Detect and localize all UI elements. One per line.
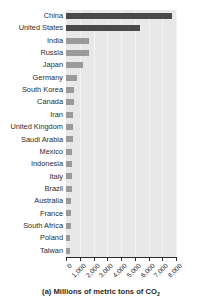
category-axis-labels: ChinaUnited StatesIndiaRussiaJapanGerman…	[0, 10, 63, 257]
category-label: Italy	[0, 171, 63, 183]
caption-text: (a) Millions of metric tons of CO	[42, 287, 157, 296]
bar-row	[66, 146, 176, 158]
tick-mark	[162, 257, 163, 261]
bar-row	[66, 22, 176, 34]
category-label: Saudi Arabia	[0, 134, 63, 146]
bar	[66, 124, 73, 130]
category-label: South Africa	[0, 220, 63, 232]
tick-label: 2,000	[84, 262, 101, 279]
bar	[66, 161, 72, 167]
bar-row	[66, 183, 176, 195]
bar-row	[66, 121, 176, 133]
tick-label: 6,000	[139, 262, 156, 279]
tick-label: 0	[65, 262, 73, 270]
bar-row	[66, 171, 176, 183]
tick-mark	[66, 257, 67, 261]
gridline	[176, 10, 177, 257]
bar	[66, 112, 73, 118]
bar	[66, 210, 71, 216]
bar-row	[66, 10, 176, 22]
category-label: Canada	[0, 96, 63, 108]
category-label: Japan	[0, 59, 63, 71]
bar	[66, 87, 74, 93]
tick-label: 4,000	[111, 262, 128, 279]
tick-label: 1,000	[70, 262, 87, 279]
bar	[66, 235, 70, 241]
category-label: China	[0, 10, 63, 22]
figure-caption: (a) Millions of metric tons of CO2	[0, 287, 202, 296]
tick-mark	[176, 257, 177, 261]
tick-mark	[135, 257, 136, 261]
bar	[66, 75, 77, 81]
bar	[66, 50, 89, 56]
bar-row	[66, 208, 176, 220]
category-label: Australia	[0, 195, 63, 207]
category-label: Brazil	[0, 183, 63, 195]
bar-row	[66, 35, 176, 47]
bar	[66, 223, 71, 229]
tick-mark	[107, 257, 108, 261]
bar-row	[66, 195, 176, 207]
bar	[66, 38, 89, 44]
co2-emissions-bar-chart: ChinaUnited StatesIndiaRussiaJapanGerman…	[0, 0, 202, 305]
category-label: Taiwan	[0, 245, 63, 257]
category-label: United Kingdom	[0, 121, 63, 133]
category-label: Poland	[0, 232, 63, 244]
tick-mark	[149, 257, 150, 261]
bar-series	[66, 10, 176, 257]
tick-label: 8,000	[166, 262, 183, 279]
bar	[66, 25, 140, 31]
bar	[66, 99, 74, 105]
tick-mark	[80, 257, 81, 261]
caption-subscript: 2	[157, 291, 160, 297]
category-label: Indonesia	[0, 158, 63, 170]
category-label: Russia	[0, 47, 63, 59]
category-label: France	[0, 208, 63, 220]
bar-row	[66, 59, 176, 71]
bar-row	[66, 72, 176, 84]
bar	[66, 62, 83, 68]
bar	[66, 186, 72, 192]
tick-mark	[121, 257, 122, 261]
category-label: India	[0, 35, 63, 47]
bar	[66, 136, 73, 142]
category-label: Iran	[0, 109, 63, 121]
bar	[66, 198, 71, 204]
category-label: United States	[0, 22, 63, 34]
bar-row	[66, 109, 176, 121]
bar-row	[66, 84, 176, 96]
tick-label: 5,000	[125, 262, 142, 279]
bar-row	[66, 96, 176, 108]
bar	[66, 173, 72, 179]
bar-row	[66, 158, 176, 170]
bar-row	[66, 220, 176, 232]
tick-mark	[94, 257, 95, 261]
category-label: South Korea	[0, 84, 63, 96]
bar	[66, 149, 72, 155]
plot-area	[66, 10, 176, 257]
category-label: Mexico	[0, 146, 63, 158]
category-label: Germany	[0, 72, 63, 84]
bar-row	[66, 134, 176, 146]
bar	[66, 248, 70, 254]
bar	[66, 13, 172, 19]
bar-row	[66, 245, 176, 257]
bar-row	[66, 232, 176, 244]
bar-row	[66, 47, 176, 59]
